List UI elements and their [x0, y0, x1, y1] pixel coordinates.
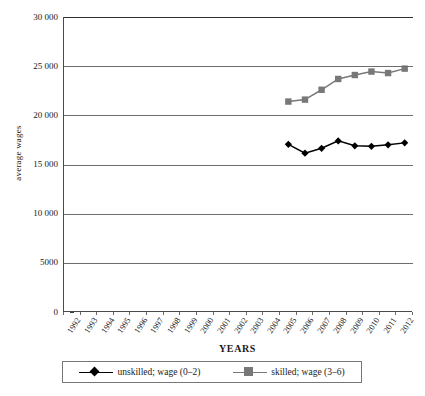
x-tick-mark — [63, 312, 64, 315]
data-point-square — [368, 68, 374, 74]
gridline — [64, 17, 413, 18]
x-tick-mark — [362, 312, 363, 315]
x-tick-mark — [96, 312, 97, 315]
data-point-square — [302, 96, 308, 102]
data-point-diamond — [384, 141, 391, 148]
legend-label-unskilled: unskilled; wage (0–2) — [117, 367, 200, 377]
y-tick-label: 0 — [14, 308, 58, 317]
line-chart: average wages 0500010 00015 00020 00025 … — [0, 0, 425, 396]
x-tick-mark — [346, 312, 347, 315]
x-axis-title: YEARS — [63, 343, 412, 354]
y-axis-tick-labels: 0500010 00015 00020 00025 00030 000 — [12, 0, 58, 396]
x-tick-mark — [229, 312, 230, 315]
x-tick-mark — [296, 312, 297, 315]
data-point-square — [335, 76, 341, 82]
gridline — [64, 66, 413, 67]
legend-item-skilled: skilled; wage (3–6) — [233, 367, 344, 378]
legend-item-unskilled: unskilled; wage (0–2) — [79, 367, 200, 378]
plot-area — [63, 17, 412, 312]
legend-swatch-unskilled — [79, 367, 113, 378]
data-point-square — [318, 87, 324, 93]
series-unskilled — [285, 137, 409, 156]
x-tick-mark — [179, 312, 180, 315]
gridline — [64, 214, 413, 215]
x-tick-mark — [312, 312, 313, 315]
y-tick-label: 5000 — [14, 258, 58, 267]
gridline — [64, 263, 413, 264]
chart-legend: unskilled; wage (0–2) skilled; wage (3–6… — [62, 361, 362, 383]
x-tick-mark — [163, 312, 164, 315]
x-tick-mark — [213, 312, 214, 315]
data-point-diamond — [351, 142, 358, 149]
y-tick-label: 20 000 — [14, 111, 58, 120]
x-tick-mark — [262, 312, 263, 315]
legend-swatch-skilled — [233, 367, 267, 378]
x-tick-mark — [279, 312, 280, 315]
y-tick-label: 15 000 — [14, 160, 58, 169]
square-marker-icon — [244, 367, 253, 376]
data-point-diamond — [368, 143, 375, 150]
diamond-marker-icon — [90, 366, 100, 376]
x-tick-mark — [196, 312, 197, 315]
series-skilled — [285, 65, 408, 104]
gridline — [64, 165, 413, 166]
x-tick-mark — [412, 312, 413, 315]
y-tick-label: 30 000 — [14, 13, 58, 22]
y-tick-label: 10 000 — [14, 209, 58, 218]
legend-label-skilled: skilled; wage (3–6) — [271, 367, 344, 377]
data-point-diamond — [335, 137, 342, 144]
data-point-diamond — [318, 145, 325, 152]
x-tick-mark — [129, 312, 130, 315]
data-point-diamond — [401, 139, 408, 146]
data-point-diamond — [301, 150, 308, 157]
data-point-square — [385, 70, 391, 76]
x-tick-mark — [80, 312, 81, 315]
x-tick-mark — [113, 312, 114, 315]
gridline — [64, 115, 413, 116]
x-tick-mark — [246, 312, 247, 315]
x-tick-mark — [395, 312, 396, 315]
data-point-square — [352, 72, 358, 78]
x-tick-mark — [146, 312, 147, 315]
x-tick-mark — [329, 312, 330, 315]
y-tick-label: 25 000 — [14, 62, 58, 71]
x-tick-mark — [379, 312, 380, 315]
data-point-diamond — [285, 141, 292, 148]
data-point-square — [285, 98, 291, 104]
